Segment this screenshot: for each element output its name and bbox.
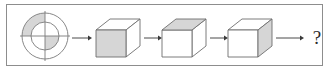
cube-front-face bbox=[96, 30, 126, 57]
arrow-2 bbox=[144, 36, 162, 41]
cube-right-shaded bbox=[228, 19, 272, 57]
cube-top-shaded bbox=[162, 19, 206, 57]
cube-front-face bbox=[162, 30, 192, 57]
puzzle-figure-panel: ? bbox=[0, 0, 331, 74]
arrow-3 bbox=[210, 36, 228, 41]
arrow-1 bbox=[72, 36, 92, 41]
arrow-4 bbox=[276, 36, 304, 41]
cube-front-face bbox=[228, 30, 258, 57]
cube-front-shaded bbox=[96, 19, 140, 57]
unknown-answer-question-mark: ? bbox=[309, 26, 325, 50]
quartered-annulus bbox=[20, 11, 70, 61]
sequence-canvas bbox=[0, 0, 331, 74]
